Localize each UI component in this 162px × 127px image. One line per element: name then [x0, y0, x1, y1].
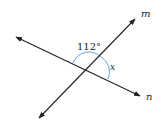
- angle-x-label: x: [110, 62, 115, 72]
- angle-arc-112: [73, 52, 101, 63]
- intersecting-lines-diagram: m n 112° x: [0, 0, 162, 127]
- line-m: [39, 19, 135, 118]
- line-m-label: m: [141, 8, 150, 19]
- line-n-label: n: [146, 91, 152, 102]
- angle-112-label: 112°: [77, 41, 101, 52]
- angle-arc-x: [101, 57, 110, 79]
